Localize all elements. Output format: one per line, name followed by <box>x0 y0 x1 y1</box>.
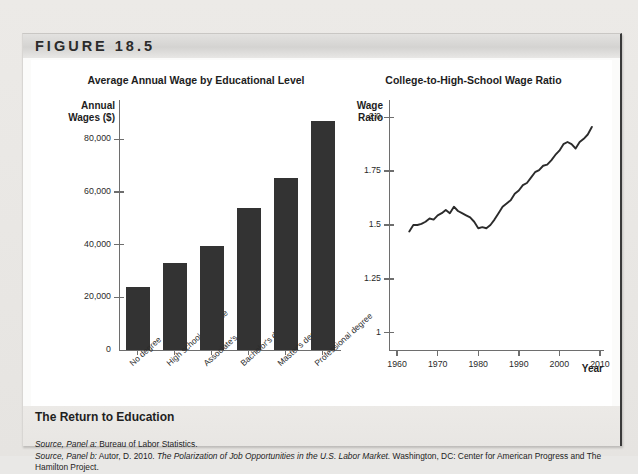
bar-y-tick <box>114 297 124 298</box>
figure-label: FIGURE 18.5 <box>35 38 155 54</box>
bar-2 <box>200 246 224 350</box>
bar-y-tick-label: 40,000 <box>49 239 111 249</box>
line-y-tick-label: 2.0 <box>337 111 381 121</box>
line-x-tick <box>437 351 438 356</box>
line-y-tick-label: 1.75 <box>337 165 381 175</box>
line-x-tick <box>478 351 479 356</box>
line-x-tick-label: 1970 <box>416 359 460 369</box>
bar-0 <box>126 287 150 350</box>
bar-y-tick-label: 0 <box>49 344 111 354</box>
line-x-tick-label: 1960 <box>375 359 419 369</box>
bar-y-tick <box>114 139 124 140</box>
line-x-tick <box>396 351 397 356</box>
line-chart-x-axis-label: Year <box>551 363 603 375</box>
bar-y-tick <box>114 191 124 192</box>
figure-panel: FIGURE 18.5 Average Annual Wage by Educa… <box>22 33 622 446</box>
bar-plot-area: 020,00040,00060,00080,000No degreeHigh s… <box>119 100 341 350</box>
figure-caption-title: The Return to Education <box>35 410 174 424</box>
source-line-a: Source, Panel a: Bureau of Labor Statist… <box>35 439 610 451</box>
line-x-tick <box>559 351 560 356</box>
wage-ratio-line <box>389 100 604 350</box>
line-x-tick <box>599 351 600 356</box>
line-plot-area: 11.251.51.752.0196019701980199020002010 <box>389 100 604 350</box>
bar-y-tick-label: 80,000 <box>49 133 111 143</box>
line-y-tick-label: 1 <box>337 327 381 337</box>
source-a-text: Bureau of Labor Statistics. <box>97 439 198 449</box>
line-x-tick <box>518 351 519 356</box>
bar-y-label-line2: Wages ($) <box>68 112 115 123</box>
source-a-prefix: Source, Panel a: <box>35 439 97 449</box>
charts-area: Average Annual Wage by Educational Level… <box>31 60 612 406</box>
line-chart-title: College-to-High-School Wage Ratio <box>341 74 606 86</box>
line-y-tick-label: 1.25 <box>337 273 381 283</box>
bar-y-label-line1: Annual <box>81 100 115 111</box>
source-b-text: Autor, D. 2010. <box>97 451 157 461</box>
bar-y-tick-label: 20,000 <box>49 291 111 301</box>
bar-chart-title: Average Annual Wage by Educational Level <box>51 74 341 86</box>
bar-3 <box>237 208 261 350</box>
bar-5 <box>311 121 335 350</box>
bar-1 <box>163 263 187 350</box>
bar-y-tick <box>114 244 124 245</box>
source-b-publication-title: The Polarization of Job Opportunities in… <box>157 451 390 461</box>
line-x-tick-label: 1990 <box>497 359 541 369</box>
line-y-label-line1: Wage <box>357 100 383 111</box>
figure-sources: Source, Panel a: Bureau of Labor Statist… <box>35 439 610 474</box>
source-b-prefix: Source, Panel b: <box>35 451 97 461</box>
bar-y-axis <box>119 100 120 350</box>
bar-4 <box>274 178 298 350</box>
bar-y-tick-label: 60,000 <box>49 186 111 196</box>
line-x-tick-label: 1980 <box>456 359 500 369</box>
line-y-tick-label: 1.5 <box>337 219 381 229</box>
bar-chart-y-axis-label: Annual Wages ($) <box>55 100 115 124</box>
source-line-b: Source, Panel b: Autor, D. 2010. The Pol… <box>35 451 610 474</box>
line-x-axis <box>389 350 604 351</box>
